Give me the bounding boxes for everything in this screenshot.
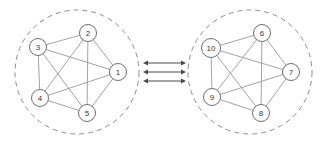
graph-edge [48, 75, 110, 96]
graph-node-5[interactable]: 5 [79, 105, 96, 122]
graph-node-2[interactable]: 2 [80, 25, 97, 42]
inter-cluster-arrow-3 [143, 78, 186, 83]
graph-edge [211, 58, 212, 89]
node-circle [30, 39, 47, 56]
graph-edge [38, 55, 39, 89]
arrow-head-left [143, 78, 148, 83]
arrow-head-right [181, 69, 186, 74]
graph-edge [45, 40, 83, 91]
cluster-graph-diagram: 12345 678910 [0, 0, 327, 145]
graph-edge [48, 101, 79, 111]
graph-edge [261, 42, 262, 105]
inter-cluster-arrow-2 [143, 69, 186, 74]
cluster-left-nodes: 12345 [30, 25, 127, 122]
node-circle [204, 89, 221, 106]
graph-edge [93, 40, 113, 66]
graph-edge [220, 100, 253, 111]
cluster-right-nodes: 678910 [202, 25, 300, 122]
node-circle [80, 25, 97, 42]
cluster-left-edges [38, 35, 113, 110]
node-circle [283, 64, 300, 81]
graph-node-4[interactable]: 4 [32, 90, 49, 107]
node-circle [254, 25, 271, 42]
graph-edge [46, 50, 110, 70]
graph-node-1[interactable]: 1 [110, 64, 127, 81]
cluster-right-edges [211, 35, 286, 110]
node-circle [110, 64, 127, 81]
cluster-right: 678910 [188, 10, 312, 134]
arrow-head-left [143, 60, 148, 65]
cluster-left: 12345 [15, 10, 139, 134]
inter-cluster-arrow-1 [143, 60, 186, 65]
graph-edge [217, 40, 257, 91]
graph-node-7[interactable]: 7 [283, 64, 300, 81]
graph-edge [92, 79, 113, 106]
graph-edge [266, 79, 286, 106]
graph-node-10[interactable]: 10 [202, 39, 221, 58]
arrow-head-right [181, 60, 186, 65]
inter-cluster-links [143, 60, 186, 83]
graph-node-3[interactable]: 3 [30, 39, 47, 56]
graph-edge [217, 56, 256, 107]
graph-edge [220, 35, 254, 45]
node-circle [32, 90, 49, 107]
graph-node-8[interactable]: 8 [253, 105, 270, 122]
graph-node-9[interactable]: 9 [204, 89, 221, 106]
node-circle [253, 105, 270, 122]
diagram-canvas: 12345 678910 [0, 0, 327, 145]
node-circle [202, 39, 221, 58]
graph-edge [220, 75, 283, 95]
graph-edge [267, 40, 286, 65]
graph-node-6[interactable]: 6 [254, 25, 271, 42]
arrow-head-left [143, 69, 148, 74]
arrow-head-right [181, 78, 186, 83]
graph-edge [46, 35, 80, 44]
graph-edge [87, 42, 88, 105]
graph-edge [220, 51, 283, 70]
node-circle [79, 105, 96, 122]
